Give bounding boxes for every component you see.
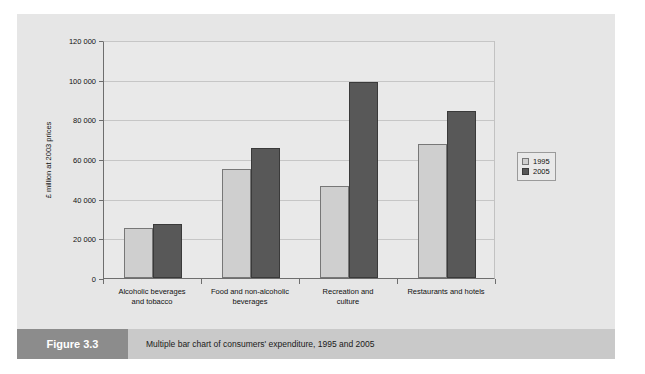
y-axis-tick-label: 0 [92, 275, 96, 284]
legend-label: 2005 [533, 167, 550, 176]
y-axis-tick-label: 60 000 [73, 156, 96, 165]
bar-2005-cat3 [447, 111, 476, 278]
y-axis-tick-label: 120 000 [69, 37, 96, 46]
chart-area: £ million at 2003 prices 020 00040 00060… [17, 14, 615, 312]
x-axis-category-label: Alcoholic beverages and tobacco [96, 287, 208, 306]
x-axis-category-label: Food and non-alcoholic beverages [194, 287, 306, 306]
y-axis-tick-label: 20 000 [73, 235, 96, 244]
y-axis-tick-label: 80 000 [73, 116, 96, 125]
bar-1995-cat1 [222, 169, 251, 278]
y-axis-tick-label: 40 000 [73, 195, 96, 204]
bar-1995-cat3 [418, 144, 447, 278]
legend-item-2005: 2005 [522, 167, 550, 176]
legend-item-1995: 1995 [522, 157, 550, 166]
y-axis-tick-label: 100 000 [69, 76, 96, 85]
legend-label: 1995 [533, 157, 550, 166]
x-axis-tick-mark [299, 279, 300, 284]
figure-caption-bar: Figure 3.3 Multiple bar chart of consume… [17, 329, 615, 359]
figure-caption-text: Multiple bar chart of consumers' expendi… [128, 329, 374, 359]
gridline [104, 41, 494, 42]
chart-legend: 19952005 [517, 152, 556, 181]
bar-1995-cat0 [124, 228, 153, 278]
bar-2005-cat2 [349, 82, 378, 278]
x-axis-category-label: Recreation and culture [292, 287, 404, 306]
x-axis-tick-mark [495, 279, 496, 284]
x-axis-tick-mark [397, 279, 398, 284]
bar-1995-cat2 [320, 186, 349, 278]
bar-2005-cat0 [153, 224, 182, 278]
gridline [104, 120, 494, 121]
x-axis-category-label: Restaurants and hotels [390, 287, 502, 297]
legend-swatch-icon [522, 168, 529, 175]
x-axis-tick-mark [103, 279, 104, 284]
plot-frame [103, 41, 495, 279]
y-axis-title: £ million at 2003 prices [44, 122, 53, 199]
figure-panel: £ million at 2003 prices 020 00040 00060… [17, 14, 615, 359]
figure-number-label: Figure 3.3 [47, 338, 99, 350]
gridline [104, 81, 494, 82]
legend-swatch-icon [522, 158, 529, 165]
bar-2005-cat1 [251, 148, 280, 278]
figure-number-box: Figure 3.3 [17, 329, 128, 359]
x-axis-tick-mark [201, 279, 202, 284]
